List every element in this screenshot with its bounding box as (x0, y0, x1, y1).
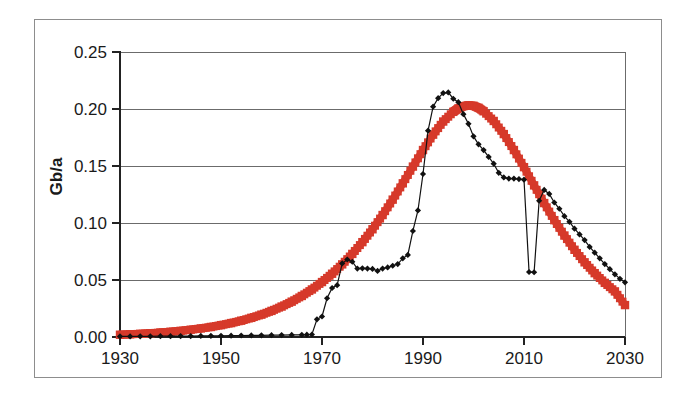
reported-production-marker (531, 269, 537, 275)
y-tick-label-0.1: 0.10 (74, 214, 107, 233)
model-curve-marker (528, 177, 536, 185)
model-curve-marker (517, 159, 525, 167)
reported-production-marker (334, 282, 340, 288)
reported-production-marker (198, 333, 204, 339)
model-curve-marker (548, 212, 556, 220)
y-axis-title-text: Gb/a (47, 157, 66, 195)
x-tick-label-1950: 1950 (202, 349, 240, 368)
reported-production-marker (314, 316, 320, 322)
model-curve-marker (558, 228, 566, 236)
model-curve-marker (406, 167, 414, 175)
model-curve-marker (416, 150, 424, 158)
y-tick-label-0: 0.00 (74, 328, 107, 347)
reported-production-marker (526, 269, 532, 275)
figure-root: 0.000.050.100.150.200.25 193019501970199… (0, 0, 687, 396)
gridlines (120, 52, 625, 280)
model-curve-marker (376, 215, 384, 223)
x-tick-label-1990: 1990 (404, 349, 442, 368)
model-curve-line (120, 105, 625, 334)
chart-canvas: 0.000.050.100.150.200.25 193019501970199… (0, 0, 687, 396)
reported-production-marker (420, 171, 426, 177)
reported-production-marker (369, 266, 375, 272)
x-tick-label-2010: 2010 (505, 349, 543, 368)
model-curve-marker (497, 127, 505, 135)
model-curve-marker (386, 199, 394, 207)
y-tick-label-0.25: 0.25 (74, 43, 107, 62)
x-axis (120, 337, 625, 345)
reported-production-marker (470, 133, 476, 139)
y-tick-label-0.15: 0.15 (74, 157, 107, 176)
x-tick-label-2030: 2030 (606, 349, 644, 368)
model-curve-marker (618, 298, 626, 306)
reported-production-marker (516, 176, 522, 182)
reported-production-marker (415, 207, 421, 213)
y-tick-label-0.05: 0.05 (74, 271, 107, 290)
reported-production-marker (364, 266, 370, 272)
y-axis-ticks (112, 52, 120, 337)
series-model-curve (116, 101, 629, 339)
y-axis-tick-labels: 0.000.050.100.150.200.25 (74, 43, 107, 347)
x-tick-label-1930: 1930 (101, 349, 139, 368)
reported-production-marker (218, 333, 224, 339)
reported-production-marker (511, 175, 517, 181)
reported-production-marker (228, 333, 234, 339)
x-tick-label-1970: 1970 (303, 349, 341, 368)
y-tick-label-0.2: 0.20 (74, 100, 107, 119)
x-axis-tick-labels: 193019501970199020102030 (101, 349, 644, 368)
reported-production-marker (319, 313, 325, 319)
reported-production-marker (329, 285, 335, 291)
model-curve-marker (507, 142, 515, 150)
y-axis-title: Gb/a (47, 157, 66, 195)
reported-production-marker (390, 263, 396, 269)
reported-production-marker (465, 121, 471, 127)
model-curve-marker (396, 183, 404, 191)
reported-production-marker (385, 264, 391, 270)
reported-production-marker (410, 228, 416, 234)
reported-production-marker (208, 333, 214, 339)
reported-production-marker (324, 295, 330, 301)
reported-production-marker (359, 265, 365, 271)
